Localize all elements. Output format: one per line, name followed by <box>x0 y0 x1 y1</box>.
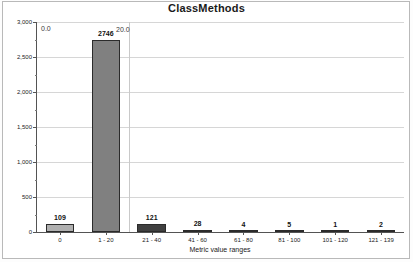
x-axis-tick <box>243 232 244 235</box>
bar-value-label: 5 <box>287 221 291 228</box>
x-axis-tick-label: 21 - 40 <box>142 237 161 243</box>
bar[interactable] <box>92 40 120 232</box>
y-axis-tick-label: 500 <box>22 194 32 200</box>
x-axis-title: Metric value ranges <box>36 246 404 253</box>
bar[interactable] <box>46 224 74 232</box>
x-axis-tick <box>289 232 290 235</box>
bar[interactable] <box>137 224 165 232</box>
x-axis-tick-label: 101 - 120 <box>323 237 348 243</box>
bar-value-label: 4 <box>241 221 245 228</box>
bar-value-label: 2746 <box>98 30 114 37</box>
bar-value-label: 1 <box>333 221 337 228</box>
y-axis-tick-label: 2,500 <box>17 54 32 60</box>
x-axis-tick-label: 81 - 100 <box>278 237 300 243</box>
x-axis-tick <box>198 232 199 235</box>
x-axis-tick <box>60 232 61 235</box>
chart-title: ClassMethods <box>0 2 413 14</box>
y-axis-tick-label: 3,000 <box>17 19 32 25</box>
y-axis-tick-label: 1,500 <box>17 124 32 130</box>
y-axis-tick-label: 0 <box>29 229 32 235</box>
x-axis-tick-label: 121 - 139 <box>368 237 393 243</box>
chart-container: ClassMethods Number of Metric values 050… <box>0 0 413 262</box>
x-axis-tick-label: 41 - 60 <box>188 237 207 243</box>
y-axis-tick-label: 1,000 <box>17 159 32 165</box>
x-axis-tick <box>152 232 153 235</box>
x-axis-tick <box>106 232 107 235</box>
bar-value-label: 109 <box>54 214 66 221</box>
bars-layer: 1092746121284512 <box>37 22 404 232</box>
x-axis-tick-label: 0 <box>58 237 61 243</box>
y-axis-tick <box>33 232 37 233</box>
bar-value-label: 2 <box>379 221 383 228</box>
plot-area: 05001,0001,5002,0002,5003,000 1092746121… <box>36 22 404 233</box>
x-axis-tick <box>381 232 382 235</box>
stray-tick-label-20: 20.0 <box>116 26 130 33</box>
bar-value-label: 28 <box>194 220 202 227</box>
bar-value-label: 121 <box>146 214 158 221</box>
x-axis-tick <box>335 232 336 235</box>
y-axis-title-wrapper: Number of Metric values <box>0 22 14 233</box>
x-axis-tick-label: 1 - 20 <box>98 237 113 243</box>
x-axis-tick-label: 61 - 80 <box>234 237 253 243</box>
stray-tick-label-0: 0.0 <box>41 25 51 32</box>
y-axis-tick-label: 2,000 <box>17 89 32 95</box>
